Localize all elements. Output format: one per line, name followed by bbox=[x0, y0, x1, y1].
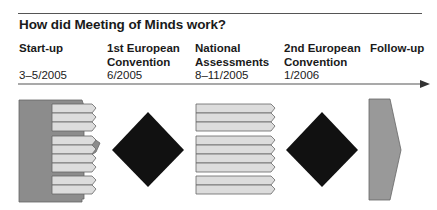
2nd-convention-diamond-icon bbox=[286, 112, 358, 187]
timeline-arrow-icon bbox=[18, 80, 430, 88]
start-up-shape bbox=[19, 100, 100, 202]
process-diagram bbox=[0, 0, 437, 210]
follow-up-arrow-icon bbox=[369, 99, 401, 200]
1st-convention-diamond-icon bbox=[112, 112, 184, 187]
national-assessments-shape bbox=[196, 104, 275, 194]
